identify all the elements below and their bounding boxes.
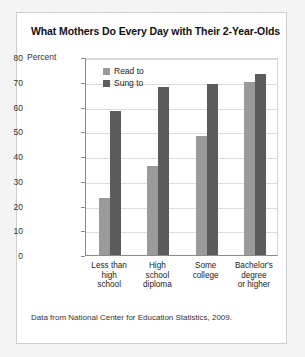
chart-legend: Read toSung to xyxy=(103,66,144,90)
legend-item: Sung to xyxy=(103,78,144,88)
x-axis-label-line: diploma xyxy=(129,280,185,290)
source-note: Data from National Center for Education … xyxy=(31,313,232,322)
legend-swatch-icon xyxy=(103,68,110,75)
bar xyxy=(99,198,110,255)
y-axis-tick-label: 10 xyxy=(0,226,23,236)
bar xyxy=(147,166,158,255)
legend-label: Sung to xyxy=(114,78,143,88)
y-axis-tick-label: 70 xyxy=(0,78,23,88)
y-axis-tick-label: 40 xyxy=(0,152,23,162)
bar xyxy=(244,82,255,255)
x-axis-label-line: or higher xyxy=(226,280,282,290)
bar xyxy=(255,74,266,255)
legend-item: Read to xyxy=(103,66,144,76)
y-axis-tick-label: 20 xyxy=(0,202,23,212)
y-axis-tick-mark xyxy=(81,256,85,257)
chart-title: What Mothers Do Every Day with Their 2-Y… xyxy=(31,25,281,37)
x-axis-label-line: degree xyxy=(226,271,282,281)
y-axis-tick-label: 30 xyxy=(0,177,23,187)
chart-page: What Mothers Do Every Day with Their 2-Y… xyxy=(0,0,305,357)
bar xyxy=(110,111,121,255)
x-axis-category-label: Bachelor'sdegreeor higher xyxy=(226,261,282,290)
bar xyxy=(207,84,218,255)
bar xyxy=(158,87,169,255)
x-axis-label-line: Bachelor's xyxy=(226,261,282,271)
chart-card: What Mothers Do Every Day with Their 2-Y… xyxy=(16,12,287,344)
y-axis-tick-label: 80 xyxy=(0,53,23,63)
y-axis-tick-label: 0 xyxy=(0,251,23,261)
y-axis-label: Percent xyxy=(27,52,56,62)
legend-swatch-icon xyxy=(103,80,110,87)
bar xyxy=(196,136,207,255)
gridline xyxy=(86,59,277,60)
y-axis-tick-label: 60 xyxy=(0,103,23,113)
y-axis-tick-label: 50 xyxy=(0,127,23,137)
legend-label: Read to xyxy=(114,66,144,76)
